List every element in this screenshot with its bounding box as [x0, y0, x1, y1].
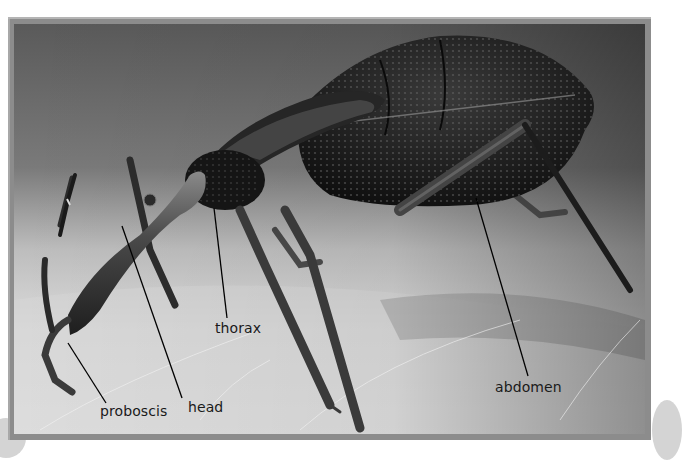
page-decoration	[652, 400, 682, 460]
label-proboscis: proboscis	[100, 404, 167, 418]
label-head: head	[188, 400, 223, 414]
insect-photo	[14, 24, 645, 434]
insect-illustration	[14, 24, 645, 434]
label-thorax: thorax	[215, 321, 261, 335]
label-abdomen: abdomen	[495, 380, 562, 394]
